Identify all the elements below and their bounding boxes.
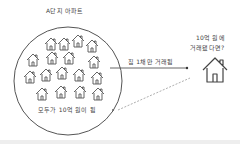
caption-dot	[112, 109, 114, 111]
traded-arrow	[110, 67, 188, 69]
house-group	[24, 35, 104, 114]
traded-house-icon	[203, 58, 227, 82]
value-dashed-line	[118, 78, 190, 110]
diagram-canvas: A단지 아파트 집 1채만 거래됨 10억 원에 거래됐다면? 모두가 10억 …	[0, 0, 240, 144]
question-line-2: 거래됐다면?	[190, 43, 224, 52]
bottom-bar	[0, 140, 240, 144]
group-caption: 모두가 10억 원이 됨	[38, 105, 96, 114]
question-line-1: 10억 원에	[196, 33, 225, 42]
complex-title: A단지 아파트	[46, 6, 83, 15]
diagram-drawing	[0, 0, 240, 144]
arrow-label: 집 1채만 거래됨	[128, 57, 173, 66]
